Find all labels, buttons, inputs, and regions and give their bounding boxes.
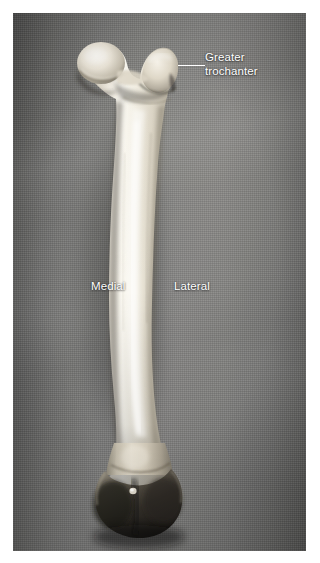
femur-bone-illustration	[13, 13, 306, 551]
figure-root: Greater trochanter Medial Lateral	[0, 0, 320, 563]
specimen-photograph: Greater trochanter Medial Lateral	[13, 13, 306, 551]
distal-metaphysis	[106, 443, 173, 475]
leader-line-greater-trochanter	[178, 65, 205, 66]
